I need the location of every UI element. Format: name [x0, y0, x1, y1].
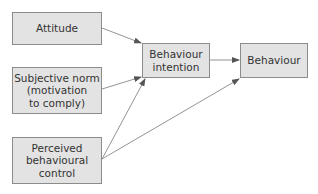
node-attitude-label: Attitude: [36, 22, 78, 35]
node-behaviour: Behaviour: [240, 43, 308, 78]
node-behaviour-label: Behaviour: [247, 54, 300, 67]
node-subjective-norm-label: Subjective norm (motivation to comply): [14, 72, 100, 110]
arrow-attitude-to-intention: [102, 28, 141, 43]
arrow-control-to-intention: [102, 79, 145, 159]
arrow-norm-to-intention: [102, 77, 141, 89]
node-perceived-control-label: Perceived behavioural control: [26, 142, 88, 180]
arrow-control-to-behaviour: [102, 79, 239, 159]
node-behaviour-intention: Behaviour intention: [142, 43, 210, 78]
node-intention-label: Behaviour intention: [149, 48, 202, 73]
node-subjective-norm: Subjective norm (motivation to comply): [12, 67, 102, 114]
node-perceived-behavioural-control: Perceived behavioural control: [12, 137, 102, 184]
node-attitude: Attitude: [12, 12, 102, 45]
